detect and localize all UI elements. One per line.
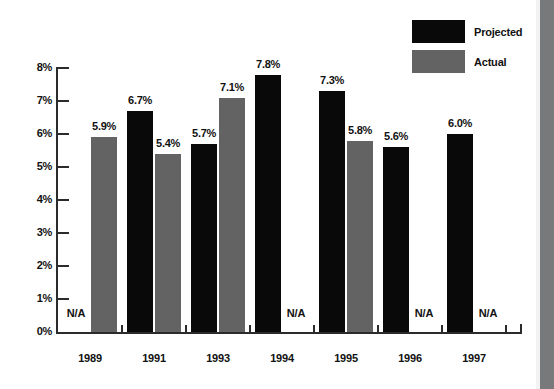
x-axis-label-1994: 1994 [246,352,318,364]
y-axis-tick [58,100,69,102]
y-axis-tick-label-text: 5% [22,160,52,172]
bar-projected-1997 [447,134,473,332]
x-axis-line [56,332,522,334]
x-axis-label-1991: 1991 [118,352,190,364]
bar-projected-1993 [191,144,217,332]
y-axis-tick-label: 6% [18,127,52,140]
x-axis-tick [441,325,443,333]
bar-value-label: 7.8% [247,58,289,70]
y-axis-tick [58,67,69,69]
y-axis-tick-label-text: 3% [22,226,52,238]
x-axis-tick [185,325,187,333]
bar-na-label: N/A [469,307,507,319]
bar-value-label: 7.1% [211,81,253,93]
y-axis-tick-label: 3% [18,226,52,239]
y-axis-tick-label-text: 7% [22,94,52,106]
x-axis-tick [249,325,251,333]
x-axis-label-1993: 1993 [182,352,254,364]
chart-page: Projected Actual 8%7%6%5%4%3%2%1%0% N/A5… [0,0,554,389]
y-axis-tick-label: 1% [18,292,52,305]
y-axis-tick-label: 2% [18,259,52,272]
y-axis-tick-label: 5% [18,160,52,173]
bar-projected-1996 [383,147,409,332]
y-axis-tick [58,265,69,267]
y-axis-tick [58,133,69,135]
y-axis-tick-label-text: 0% [22,325,52,337]
x-axis-label-1996: 1996 [374,352,446,364]
bar-value-label: 6.0% [439,117,481,129]
bar-value-label: 5.9% [83,120,125,132]
bar-value-label: 5.6% [375,130,417,142]
y-axis-tick [58,199,69,201]
x-axis-label-1995: 1995 [310,352,382,364]
x-axis-tick [121,325,123,333]
y-axis-tick-label-text: 2% [22,259,52,271]
bar-value-label: 6.7% [119,94,161,106]
x-axis-tick [505,325,507,333]
x-axis-tick [313,325,315,333]
bar-na-label: N/A [405,307,443,319]
plot-area: 8%7%6%5%4%3%2%1%0% N/A5.9%6.7%5.4%5.7%7.… [0,0,554,389]
x-axis-label-1989: 1989 [54,352,126,364]
x-axis-end-tick [520,324,522,334]
y-axis-tick [58,166,69,168]
y-axis-tick-label-text: 6% [22,127,52,139]
x-axis-tick [377,325,379,333]
y-axis-tick-label: 8% [18,61,52,74]
y-axis-tick-label-text: 1% [22,292,52,304]
bar-na-label: N/A [277,307,315,319]
y-axis-tick-label: 0% [18,325,52,338]
bar-na-label: N/A [57,307,95,319]
y-axis-tick-label-text: 8% [22,61,52,73]
bar-projected-1994 [255,75,281,332]
x-axis-label-1997: 1997 [438,352,510,364]
bar-value-label: 7.3% [311,74,353,86]
bar-actual-1993 [219,98,245,332]
y-axis-tick-label: 4% [18,193,52,206]
bar-actual-1995 [347,141,373,332]
bar-actual-1991 [155,154,181,332]
y-axis-tick-label-text: 4% [22,193,52,205]
y-axis-tick-label: 7% [18,94,52,107]
y-axis-tick [58,298,69,300]
bar-actual-1989 [91,137,117,332]
y-axis-tick [58,232,69,234]
